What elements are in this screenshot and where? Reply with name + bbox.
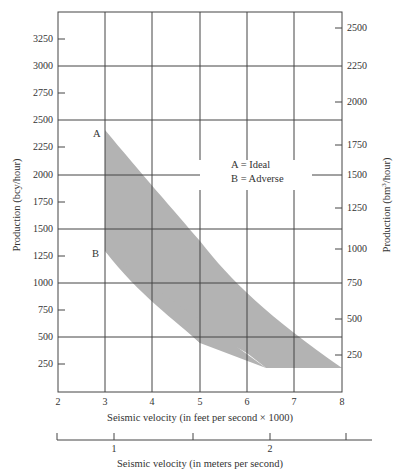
svg-text:2: 2	[268, 443, 273, 454]
svg-text:7: 7	[292, 396, 297, 407]
metric-axis-tick-labels: 1 2	[112, 443, 273, 454]
grid	[58, 12, 342, 392]
production-vs-seismic-velocity-chart: 3250 3000 2750 2500 2250 2000 1750 1500 …	[0, 0, 400, 472]
right-y-tick-labels: 2500 2250 2000 1750 1500 1250 1000 750 5…	[347, 22, 367, 360]
svg-text:6: 6	[245, 396, 250, 407]
legend: A = Ideal B = Adverse	[231, 159, 284, 184]
svg-text:250: 250	[38, 358, 53, 369]
svg-text:500: 500	[347, 313, 362, 324]
svg-text:5: 5	[198, 396, 203, 407]
svg-text:250: 250	[347, 349, 362, 360]
svg-text:1750: 1750	[33, 196, 53, 207]
right-y-axis-title: Production (bm3/hour)	[380, 157, 393, 252]
svg-text:1250: 1250	[347, 202, 367, 213]
x-tick-labels: 2 3 4 5 6 7 8	[56, 396, 345, 407]
point-b-label: B	[92, 248, 99, 259]
svg-text:2500: 2500	[33, 114, 53, 125]
svg-text:8: 8	[340, 396, 345, 407]
left-y-tick-labels: 3250 3000 2750 2500 2250 2000 1750 1500 …	[33, 33, 53, 369]
left-y-ticks	[58, 39, 65, 364]
svg-text:2750: 2750	[33, 87, 53, 98]
svg-text:3: 3	[103, 396, 108, 407]
svg-text:2250: 2250	[347, 60, 367, 71]
svg-text:1000: 1000	[33, 277, 53, 288]
svg-text:4: 4	[150, 396, 155, 407]
svg-text:2: 2	[56, 396, 61, 407]
metric-axis	[57, 433, 372, 440]
point-a-label: A	[93, 128, 101, 139]
svg-text:1500: 1500	[347, 169, 367, 180]
production-band	[105, 130, 342, 368]
svg-text:2500: 2500	[347, 22, 367, 33]
svg-text:1: 1	[112, 443, 117, 454]
svg-text:1750: 1750	[347, 139, 367, 150]
svg-text:750: 750	[38, 304, 53, 315]
x-axis-title: Seismic velocity (in feet per second × 1…	[107, 412, 293, 424]
metric-axis-title: Seismic velocity (in meters per second)	[117, 458, 283, 470]
svg-text:1250: 1250	[33, 250, 53, 261]
left-y-axis-title: Production (bcy/hour)	[11, 158, 23, 252]
svg-text:3250: 3250	[33, 33, 53, 44]
svg-text:500: 500	[38, 331, 53, 342]
svg-text:1000: 1000	[347, 243, 367, 254]
svg-text:2000: 2000	[33, 169, 53, 180]
svg-text:2000: 2000	[347, 96, 367, 107]
right-y-ticks	[335, 28, 342, 355]
svg-text:A = Ideal: A = Ideal	[231, 159, 270, 170]
svg-text:750: 750	[347, 277, 362, 288]
svg-text:3000: 3000	[33, 60, 53, 71]
svg-text:2250: 2250	[33, 141, 53, 152]
svg-text:B = Adverse: B = Adverse	[231, 173, 284, 184]
svg-text:1500: 1500	[33, 223, 53, 234]
